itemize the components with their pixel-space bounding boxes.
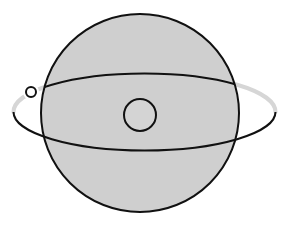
central-body-circle	[124, 99, 156, 131]
sphere-orbit-diagram	[0, 0, 295, 230]
orbiting-body-circle	[26, 87, 36, 97]
